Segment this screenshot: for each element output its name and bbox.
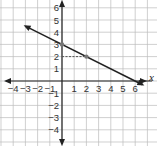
x-axis-label: x [148, 71, 154, 83]
y-tick-label: −3 [48, 112, 59, 123]
y-tick-label: 6 [54, 2, 59, 13]
data-series [24, 25, 145, 85]
y-axis-down-arrow-icon [59, 139, 65, 146]
y-tick-label: 1 [54, 63, 59, 74]
data-point [60, 42, 64, 46]
y-tick-label: −4 [48, 124, 59, 135]
y-tick-label: 2 [54, 51, 59, 62]
y-axis-up-arrow-icon [59, 0, 65, 7]
data-point [84, 54, 88, 58]
x-tick-label: −4 [8, 83, 19, 94]
plotted-line [25, 26, 142, 85]
x-tick-label: 4 [108, 83, 113, 94]
x-tick-label: 1 [72, 83, 77, 94]
x-tick-label: 5 [120, 83, 125, 94]
y-tick-label: 5 [54, 15, 59, 26]
axes [4, 0, 152, 146]
x-tick-label: −3 [20, 83, 31, 94]
x-tick-label: 2 [84, 83, 89, 94]
x-tick-label: −2 [32, 83, 43, 94]
x-tick-label: 3 [96, 83, 101, 94]
y-tick-label: 4 [54, 27, 59, 38]
y-tick-label: −2 [48, 100, 59, 111]
grid [0, 0, 157, 146]
coordinate-plane: −4−3−2−1123456654321−1−2−3−4 x [0, 0, 157, 146]
y-tick-label: −1 [48, 88, 59, 99]
